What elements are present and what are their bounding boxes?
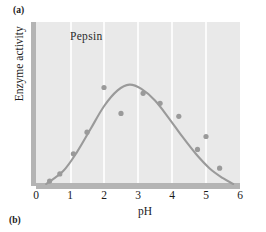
x-tick-label-3: 3 <box>131 190 145 202</box>
data-point <box>57 171 62 176</box>
x-axis-title-text: pH <box>138 206 152 218</box>
plot-data-layer <box>36 22 240 186</box>
data-point <box>176 114 181 119</box>
data-point <box>84 130 89 135</box>
x-tick-label-6: 6 <box>233 190 247 202</box>
x-tick-label-1: 1 <box>63 190 77 202</box>
data-point <box>203 134 208 139</box>
data-point <box>141 91 146 96</box>
x-tick-label-0: 0 <box>29 190 43 202</box>
data-point <box>47 179 52 184</box>
x-tick-label-4: 4 <box>165 190 179 202</box>
data-point <box>101 85 106 90</box>
y-axis-title: Enzyme activity <box>14 4 26 124</box>
x-tick-label-5: 5 <box>199 190 213 202</box>
data-point <box>217 166 222 171</box>
enzyme-activity-ph-chart: Pepsin <box>31 22 240 189</box>
data-point <box>158 101 163 106</box>
series-label: Pepsin <box>70 30 102 42</box>
figure-root: (a) Pepsin 0123456 pH Enzyme activity (b… <box>0 0 266 232</box>
x-tick-label-2: 2 <box>97 190 111 202</box>
data-point <box>118 111 123 116</box>
data-point-group <box>47 85 222 184</box>
panel-b-label: (b) <box>9 216 21 226</box>
data-point <box>71 151 76 156</box>
x-axis-title: pH <box>0 206 266 218</box>
data-point <box>195 147 200 152</box>
